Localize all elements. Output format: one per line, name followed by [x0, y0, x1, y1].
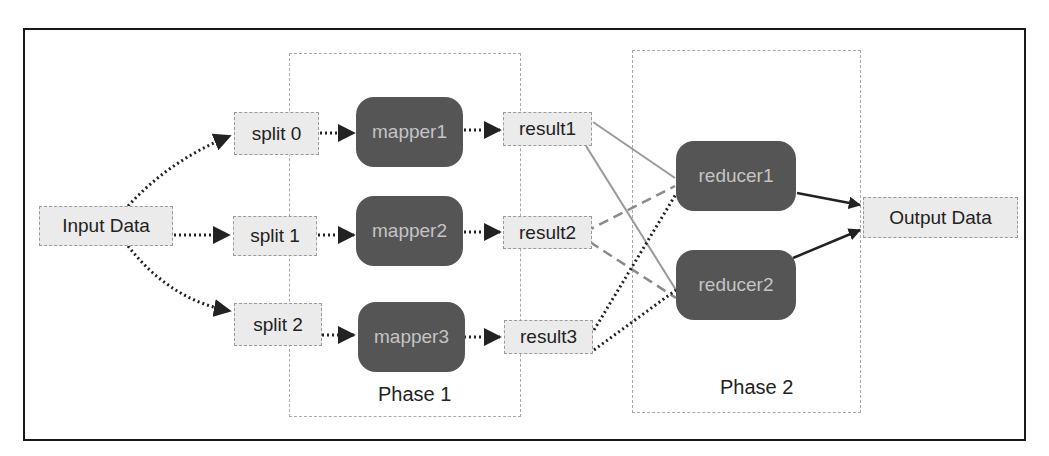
edge-input-split2: [128, 246, 230, 311]
reducer2-node: reducer2: [676, 250, 796, 320]
mapper3-node: mapper3: [358, 302, 465, 372]
output-data-box: Output Data: [863, 197, 1018, 238]
result1-box: result1: [503, 112, 592, 146]
edge-input-split0: [128, 136, 230, 206]
edge-result3-reducer2: [594, 290, 676, 350]
split-0-box: split 0: [234, 112, 319, 155]
split-2-box: split 2: [234, 303, 322, 346]
edge-reducer2-output: [793, 230, 860, 258]
edge-result3-reducer1: [594, 194, 676, 330]
input-data-box: Input Data: [39, 206, 173, 246]
edge-result1-reducer1: [593, 122, 675, 178]
mapper1-node: mapper1: [356, 97, 463, 167]
edge-reducer1-output: [797, 193, 860, 205]
mapper2-node: mapper2: [356, 196, 463, 266]
phase-1-label: Phase 1: [378, 383, 451, 406]
phase-2-label: Phase 2: [720, 376, 793, 399]
reducer1-node: reducer1: [676, 141, 796, 211]
result2-box: result2: [503, 216, 592, 249]
edge-result2-reducer1: [585, 186, 675, 232]
split-1-box: split 1: [233, 216, 317, 256]
result3-box: result3: [504, 320, 593, 354]
